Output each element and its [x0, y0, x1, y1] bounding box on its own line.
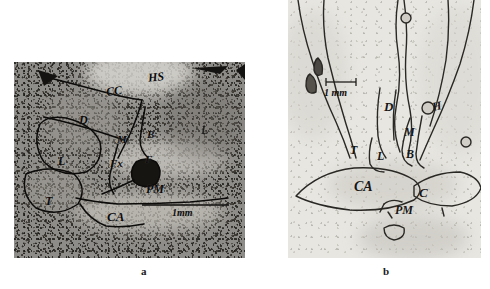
panel-a-label-CA: CA — [107, 210, 124, 223]
panel-b-scalebar-label: 1 mm — [324, 88, 347, 98]
panel-b-label-PM: PM — [395, 204, 413, 216]
figure-container: HS CC D M B L Fx F PM T CA L 1mm — [0, 0, 490, 289]
panel-a-label-Fx: Fx — [110, 158, 123, 169]
panel-a-scalebar-label: 1mm — [172, 208, 193, 218]
panel-b-label-L: L — [377, 150, 384, 162]
panel-a-label-B: B — [147, 129, 154, 140]
panel-a-label-PM: PM — [146, 183, 164, 195]
panel-a-label-CC: CC — [105, 84, 123, 98]
panel-a-label-D: D — [79, 114, 88, 126]
panel-b-label-T: T — [350, 144, 357, 156]
panel-b-label-C: C — [419, 186, 428, 199]
panel-b-image: D M B H T L CA C PM 1 mm — [288, 0, 481, 258]
panel-b-annotation-overlay — [288, 0, 481, 258]
panel-a-label-T: T — [45, 195, 52, 207]
panel-a-label-M: M — [117, 134, 127, 145]
panel-a-image: HS CC D M B L Fx F PM T CA L 1mm — [14, 62, 245, 258]
panel-b-label-D: D — [384, 100, 393, 113]
panel-a-label-L-right: L — [201, 124, 208, 136]
panel-a-label-L-left: L — [58, 155, 65, 167]
panel-a-label-HS: HS — [147, 70, 164, 84]
panel-a-caption: a — [141, 265, 147, 277]
panel-a-annotation-overlay — [14, 62, 245, 258]
panel-b-label-M: M — [404, 126, 415, 138]
panel-b-caption: b — [383, 265, 389, 277]
panel-a-label-F: F — [145, 154, 152, 165]
panel-b-scalebar — [326, 78, 356, 86]
panel-b-label-CA: CA — [354, 180, 373, 194]
panel-b-label-B: B — [406, 148, 414, 160]
